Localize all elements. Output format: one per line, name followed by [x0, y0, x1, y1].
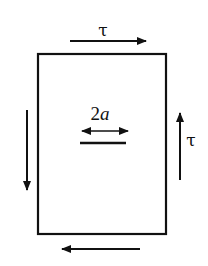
shear-crack-diagram: τ τ 2a [0, 0, 208, 266]
top-shear-label: τ [98, 20, 107, 40]
crack-length-label: 2a [91, 103, 110, 124]
crack-length-prefix: 2 [91, 103, 101, 124]
right-shear-label: τ [186, 130, 195, 150]
crack-length-variable: a [100, 103, 110, 124]
